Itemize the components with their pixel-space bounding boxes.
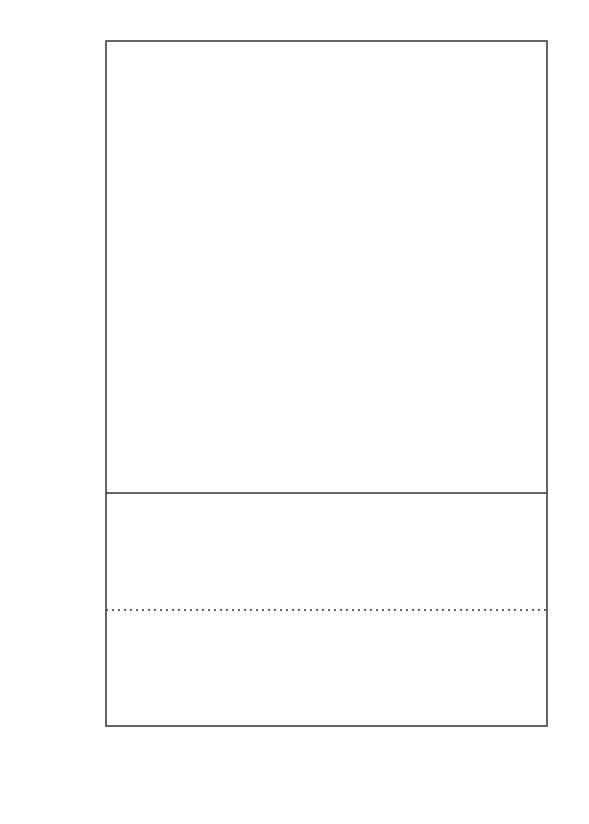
- mass-radius-chart: [0, 0, 589, 824]
- plot-frame: [106, 41, 547, 726]
